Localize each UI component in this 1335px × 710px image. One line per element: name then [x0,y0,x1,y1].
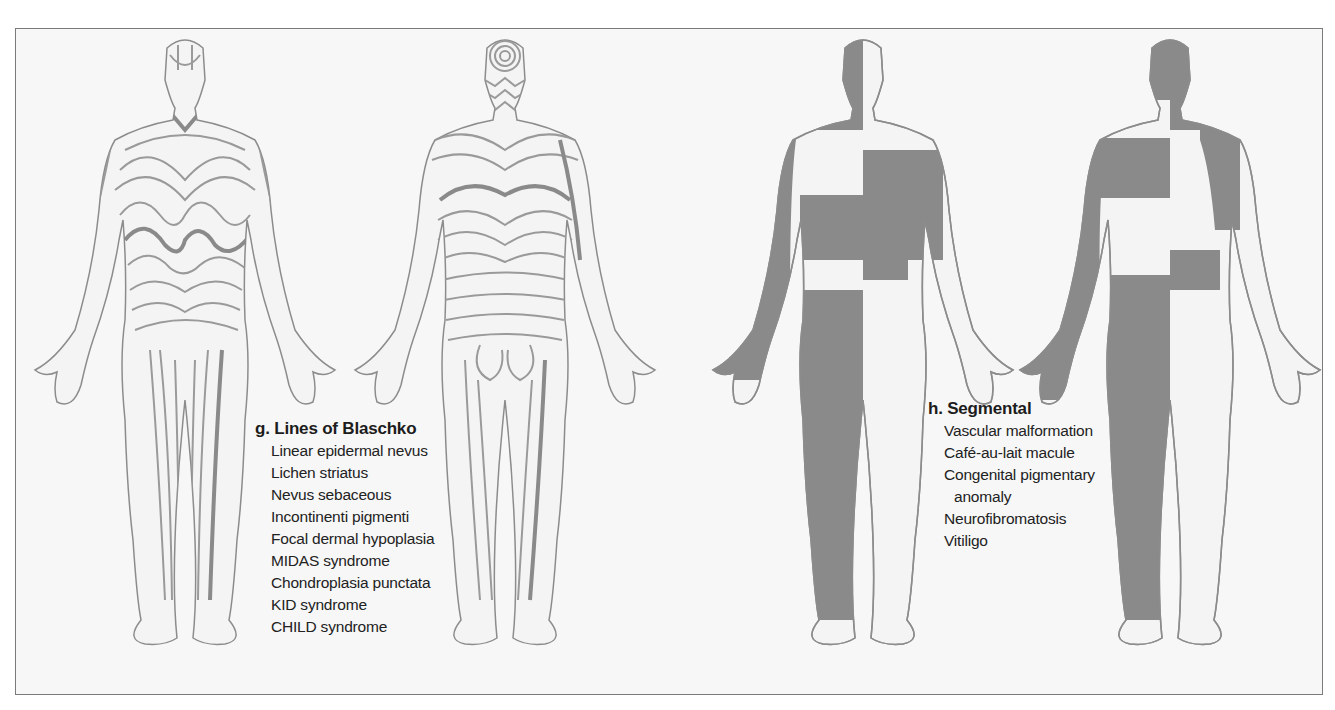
condition-item: Neurofibromatosis [944,508,1095,530]
condition-item: Congenital pigmentary [944,464,1095,486]
condition-item: Linear epidermal nevus [271,440,434,462]
condition-list: Linear epidermal nevus Lichen striatus N… [255,440,434,638]
caption-segmental: h. Segmental Vascular malformation Café-… [928,398,1095,552]
condition-item: Focal dermal hypoplasia [271,528,434,550]
condition-item: Chondroplasia punctata [271,572,434,594]
body-diagrams [0,0,1335,710]
condition-item: Vitiligo [944,530,1095,552]
condition-item: CHILD syndrome [271,616,434,638]
condition-item-continuation: anomaly [944,486,1095,508]
condition-item: Vascular malformation [944,420,1095,442]
caption-title: h. Segmental [928,398,1095,420]
condition-item: Lichen striatus [271,462,434,484]
condition-item: KID syndrome [271,594,434,616]
caption-lines-of-blaschko: g. Lines of Blaschko Linear epidermal ne… [255,418,434,638]
condition-item: MIDAS syndrome [271,550,434,572]
caption-title: g. Lines of Blaschko [255,418,434,440]
condition-item: Café-au-lait macule [944,442,1095,464]
segmental-back-figure [1010,30,1320,644]
segmental-front-figure [700,30,1013,644]
condition-item: Nevus sebaceous [271,484,434,506]
condition-item: Incontinenti pigmenti [271,506,434,528]
condition-list: Vascular malformation Café-au-lait macul… [928,420,1095,552]
